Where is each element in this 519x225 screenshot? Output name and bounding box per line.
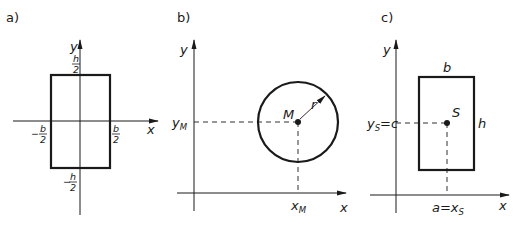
panel-b-label: b) bbox=[177, 10, 190, 25]
diagram-canvas: a) y x h 2 b 2 − b 2 − h 2 b) bbox=[0, 0, 519, 225]
svg-text:b: b bbox=[113, 123, 119, 134]
x-axis-label: x bbox=[498, 198, 507, 213]
centroid-label: S bbox=[452, 105, 460, 120]
centroid-point bbox=[444, 120, 450, 126]
y-axis-label: y bbox=[382, 42, 391, 57]
x-coord-label: xM bbox=[290, 198, 307, 215]
center-label: M bbox=[283, 107, 294, 122]
x-coord-label: a=xS bbox=[432, 200, 465, 217]
panel-c-label: c) bbox=[381, 10, 393, 25]
width-label: b bbox=[443, 60, 451, 75]
svg-text:2: 2 bbox=[113, 134, 119, 145]
y-coord-label: yS=c bbox=[366, 116, 398, 133]
y-axis-label: y bbox=[69, 39, 78, 54]
x-axis-label: x bbox=[339, 200, 348, 215]
panel-b: b) y x M r yM xM bbox=[171, 10, 348, 215]
svg-text:2: 2 bbox=[70, 182, 76, 193]
y-axis-label: y bbox=[179, 42, 188, 57]
svg-text:2: 2 bbox=[73, 64, 79, 75]
svg-text:h: h bbox=[70, 171, 76, 182]
y-coord-label: yM bbox=[171, 115, 188, 132]
x-axis-label: x bbox=[146, 122, 155, 137]
height-label: h bbox=[478, 116, 486, 131]
svg-text:b: b bbox=[40, 123, 46, 134]
label-bottom-neg-h-half: − h 2 bbox=[63, 171, 77, 193]
label-top-h-half: h 2 bbox=[72, 53, 80, 75]
svg-text:2: 2 bbox=[40, 134, 46, 145]
label-left-neg-b-half: − b 2 bbox=[31, 123, 47, 145]
radius-label: r bbox=[311, 97, 318, 112]
svg-text:h: h bbox=[73, 53, 79, 64]
svg-text:−: − bbox=[31, 128, 39, 139]
panel-c: c) y x S b h yS=c a=xS bbox=[366, 10, 509, 217]
panel-a: a) y x h 2 b 2 − b 2 − h 2 bbox=[6, 10, 158, 215]
panel-a-label: a) bbox=[6, 10, 19, 25]
center-point bbox=[295, 119, 301, 125]
label-right-b-half: b 2 bbox=[112, 123, 120, 145]
